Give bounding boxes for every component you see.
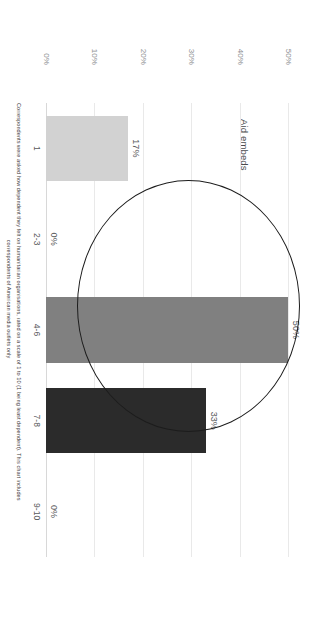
bar-1 — [46, 116, 128, 181]
gridline — [288, 103, 289, 557]
chart-figure: Aid embeds 17%0%50%33%0% 0%10%20%30%40%5… — [0, 0, 316, 630]
x-tick-4-6: 4-6 — [32, 324, 42, 337]
caption-line-1: Correspondents were asked how dependent … — [16, 103, 22, 501]
bar-value-label-1: 17% — [131, 139, 141, 157]
bar-4-6 — [46, 297, 288, 362]
rotated-chart-canvas: Aid embeds 17%0%50%33%0% 0%10%20%30%40%5… — [0, 0, 316, 630]
bar-7-8 — [46, 388, 206, 453]
y-tick-20%: 20% — [138, 11, 147, 71]
bar-value-label-4-6: 50% — [291, 321, 301, 339]
x-tick-2-3: 2-3 — [32, 233, 42, 246]
y-tick-30%: 30% — [187, 11, 196, 71]
y-tick-10%: 10% — [90, 11, 99, 71]
chart-caption: Correspondents were asked how dependent … — [3, 103, 23, 573]
y-tick-40%: 40% — [235, 11, 244, 71]
x-tick-9-10: 9-10 — [32, 503, 42, 520]
x-tick-1: 1 — [32, 146, 42, 151]
x-tick-7-8: 7-8 — [32, 415, 42, 428]
caption-line-2: correspondents of American media outlets… — [3, 103, 13, 495]
y-tick-50%: 50% — [284, 11, 293, 71]
plot-area: 17%0%50%33%0% — [46, 103, 288, 557]
bar-value-label-2-3: 0% — [49, 233, 59, 246]
bar-value-label-7-8: 33% — [209, 412, 219, 430]
y-tick-0%: 0% — [42, 11, 51, 71]
bar-value-label-9-10: 0% — [49, 505, 59, 518]
